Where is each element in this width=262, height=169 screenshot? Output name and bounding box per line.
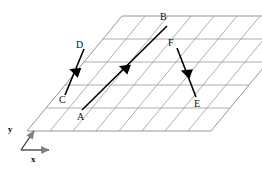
y-axis-arrow [21,131,34,150]
point-label-f: F [168,38,174,48]
point-label-a: A [77,112,84,122]
lattice-line-slanted [96,16,191,131]
y-axis-arrow-arrowhead [27,131,34,139]
point-label-c: C [59,95,66,105]
vector-c-to-d [65,49,84,95]
lattice-line-slanted [119,16,214,131]
lattice-grid [27,16,262,131]
lattice-line-slanted [73,16,168,131]
vector-f-to-e [177,48,196,97]
lattice-edge-slanted [211,16,262,131]
axis-indicator [21,131,49,153]
y-axis-label: y [8,125,13,134]
x-axis-arrow [21,147,49,154]
figure-canvas [0,0,262,169]
lattice-line-slanted [165,16,260,131]
x-axis-label: x [31,155,36,164]
vector-c-to-d-arrowhead [69,68,81,78]
lattice-line-slanted [50,16,145,131]
vector-f-to-e-arrowhead [181,69,193,79]
x-axis-arrow-arrowhead [42,147,50,154]
lattice-figure: A B C D E F x y [0,0,262,169]
point-label-b: B [160,12,167,22]
point-label-e: E [194,99,200,109]
point-label-d: D [76,40,83,50]
